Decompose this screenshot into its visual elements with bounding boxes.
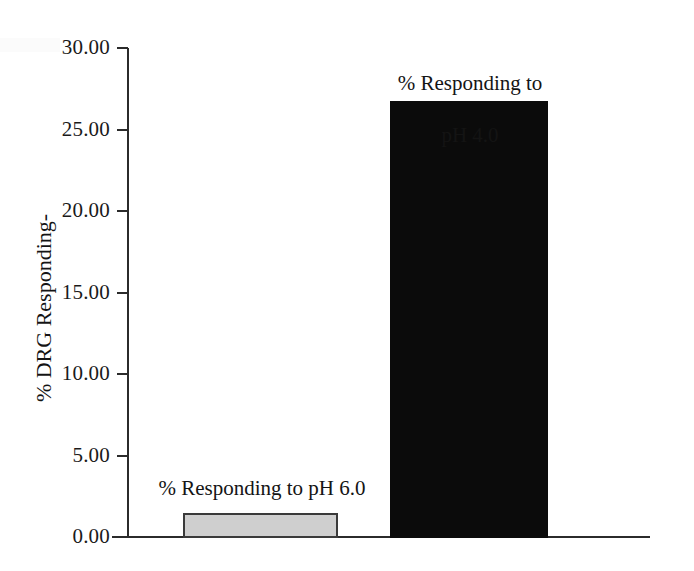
bar-ph-6-0 — [183, 513, 338, 538]
y-tick-label-30: 30.00 — [0, 37, 110, 58]
bar-chart-figure: % DRG Responding- 30.00 25.00 20.00 15.0… — [0, 0, 694, 571]
y-tick-label-0: 0.00 — [0, 526, 110, 547]
y-axis-line — [127, 48, 129, 538]
y-tick-label-20: 20.00 — [0, 200, 110, 221]
y-tick-label-15: 15.00 — [0, 282, 110, 303]
y-tick-mark-0 — [112, 536, 128, 538]
bar-label-ph-4-0-line2: pH 4.0 — [378, 122, 562, 148]
y-tick-label-5: 5.00 — [0, 445, 110, 466]
y-tick-label-25: 25.00 — [0, 119, 110, 140]
bar-label-ph-6-0: % Responding to pH 6.0 — [152, 475, 372, 501]
bar-label-ph-4-0: % Responding to pH 4.0 — [378, 44, 562, 174]
y-tick-label-10: 10.00 — [0, 363, 110, 384]
scan-artifact-bleed-text — [392, 543, 572, 565]
bar-label-ph-4-0-line1: % Responding to — [378, 70, 562, 96]
